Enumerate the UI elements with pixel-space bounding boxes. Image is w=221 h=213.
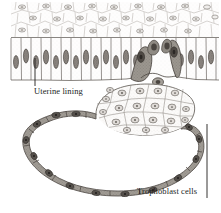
blastocyst-implantation-figure: Uterine lining Trophoblast cells [0,0,221,213]
uterine-lining-label: Uterine lining [34,86,83,96]
inner-cell-mass [96,84,195,136]
diagram-canvas [0,0,221,213]
columnar-epithelium-layer [11,38,219,81]
trophoblast-cells-label: Trophoblast cells [137,186,197,196]
uterine-stroma-layer [11,2,219,38]
